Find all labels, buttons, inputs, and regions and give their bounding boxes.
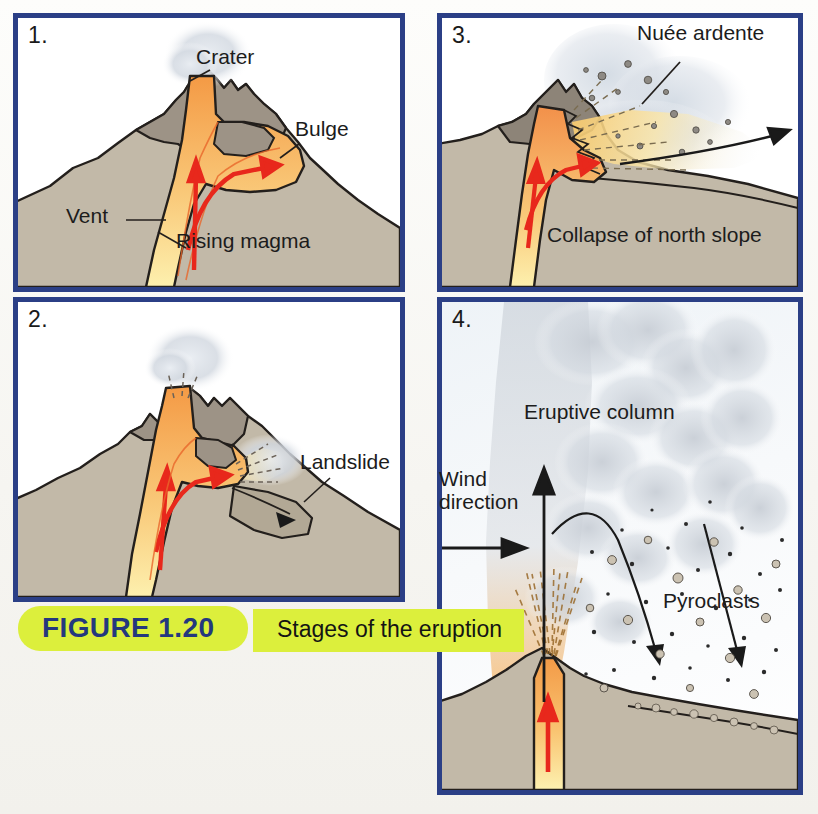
label-crater: Crater bbox=[196, 46, 254, 69]
figure-number-text: FIGURE 1.20 bbox=[42, 612, 214, 643]
label-vent: Vent bbox=[66, 205, 108, 228]
label-rising-magma: Rising magma bbox=[176, 230, 310, 253]
figure-caption-block: FIGURE 1.20 Stages of the eruption bbox=[18, 606, 524, 652]
panel-stage-3: 3. bbox=[437, 13, 803, 292]
panel-2-number: 2. bbox=[28, 306, 48, 333]
label-bulge: Bulge bbox=[295, 118, 349, 141]
stage-4-illustration bbox=[442, 302, 798, 790]
label-nuee-ardente: Nuée ardente bbox=[637, 22, 764, 45]
label-pyroclasts: Pyroclasts bbox=[663, 590, 760, 613]
figure-caption-band: Stages of the eruption bbox=[253, 609, 524, 652]
label-collapse-north-slope: Collapse of north slope bbox=[547, 224, 762, 247]
panel-3-number: 3. bbox=[452, 22, 472, 49]
figure-caption-text: Stages of the eruption bbox=[277, 616, 502, 642]
label-landslide: Landslide bbox=[300, 451, 390, 474]
figure-number-pill: FIGURE 1.20 bbox=[18, 606, 248, 651]
panel-4-number: 4. bbox=[452, 306, 472, 333]
label-wind-direction: Wind direction bbox=[439, 468, 518, 513]
panel-1-number: 1. bbox=[28, 22, 48, 49]
label-eruptive-column: Eruptive column bbox=[524, 401, 675, 424]
panel-stage-4: 4. bbox=[437, 297, 803, 795]
summit-ash-cloud-2 bbox=[144, 348, 196, 388]
